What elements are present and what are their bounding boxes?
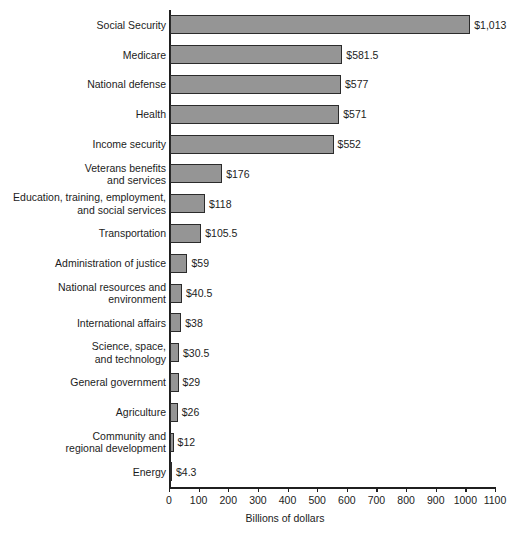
bar-row: Education, training, employment,and soci… (0, 189, 520, 219)
x-axis-tick-label: 100 (190, 494, 208, 506)
bar-value-label: $581.5 (346, 49, 378, 61)
x-axis-tick-label: 200 (220, 494, 238, 506)
bar-value-label: $105.5 (205, 227, 237, 239)
bar-and-value: $176 (170, 159, 250, 189)
category-label-line: Community and (92, 430, 166, 442)
bar (170, 224, 201, 243)
x-axis-tick (465, 487, 466, 492)
category-label-line: Medicare (123, 49, 166, 61)
bar-row: General government$29 (0, 368, 520, 398)
bar (170, 105, 339, 124)
category-label-line: and services (107, 174, 166, 186)
bar-row: Agriculture$26 (0, 397, 520, 427)
bar-and-value: $12 (170, 427, 195, 457)
x-axis-tick-label: 300 (249, 494, 267, 506)
x-axis-tick (199, 487, 200, 492)
bar-row: Medicare$581.5 (0, 40, 520, 70)
x-axis-line (169, 487, 496, 489)
category-label-line: and technology (95, 353, 166, 365)
x-axis-tick (317, 487, 318, 492)
bar (170, 164, 222, 183)
bar-value-label: $26 (182, 406, 200, 418)
x-axis-tick (258, 487, 259, 492)
category-label: Education, training, employment,and soci… (0, 189, 166, 219)
category-label: National resources andenvironment (0, 278, 166, 308)
category-label-line: regional development (66, 442, 166, 454)
x-axis-title-text: Billions of dollars (246, 512, 325, 524)
x-axis-title: Billions of dollars (0, 512, 520, 524)
bar-value-label: $38 (185, 317, 203, 329)
category-label: Social Security (0, 10, 166, 40)
category-label: Energy (0, 457, 166, 487)
category-label-line: environment (108, 293, 166, 305)
bar (170, 254, 187, 273)
bar-value-label: $118 (209, 198, 232, 210)
x-axis-tick-label: 700 (368, 494, 386, 506)
bar-row: Science, space,and technology$30.5 (0, 338, 520, 368)
category-label-line: Administration of justice (55, 257, 166, 269)
bar-value-label: $1,013 (474, 19, 506, 31)
category-label-line: National defense (87, 78, 166, 90)
bar-and-value: $552 (170, 129, 361, 159)
bar (170, 194, 205, 213)
x-axis-tick (376, 487, 377, 492)
category-label: Administration of justice (0, 248, 166, 278)
category-label-line: Social Security (97, 19, 166, 31)
bar-value-label: $176 (226, 168, 249, 180)
x-axis-tick-label: 1000 (454, 494, 477, 506)
bar-row: Transportation$105.5 (0, 219, 520, 249)
category-label-line: Energy (133, 466, 166, 478)
bar (170, 75, 341, 94)
bar-value-label: $29 (183, 376, 201, 388)
bar (170, 343, 179, 362)
bar-value-label: $571 (343, 108, 366, 120)
bar-row: National defense$577 (0, 70, 520, 100)
category-label: Agriculture (0, 397, 166, 427)
bar-and-value: $118 (170, 189, 232, 219)
bar-row: Social Security$1,013 (0, 10, 520, 40)
category-label-line: and social services (77, 204, 166, 216)
bar-and-value: $40.5 (170, 278, 212, 308)
bar-row: Income security$552 (0, 129, 520, 159)
bar (170, 403, 178, 422)
category-label-line: Education, training, employment, (13, 191, 166, 203)
bar-and-value: $577 (170, 70, 368, 100)
bar (170, 15, 470, 34)
category-label-line: Agriculture (116, 406, 166, 418)
category-label-line: Income security (92, 138, 166, 150)
x-axis-tick-label: 600 (338, 494, 356, 506)
category-label-line: General government (70, 376, 166, 388)
category-label-line: National resources and (58, 281, 166, 293)
bar-and-value: $1,013 (170, 10, 506, 40)
category-label: Transportation (0, 219, 166, 249)
bar (170, 462, 172, 481)
category-label: Veterans benefitsand services (0, 159, 166, 189)
category-label: Health (0, 99, 166, 129)
x-axis-tick (288, 487, 289, 492)
category-label-line: International affairs (77, 317, 166, 329)
bar-row: Energy$4.3 (0, 457, 520, 487)
category-label: Science, space,and technology (0, 338, 166, 368)
x-axis-tick (169, 487, 170, 492)
bar-value-label: $4.3 (176, 466, 196, 478)
category-label: National defense (0, 70, 166, 100)
x-axis-tick (495, 487, 496, 492)
bar-value-label: $59 (191, 257, 209, 269)
bar (170, 284, 182, 303)
bar-value-label: $30.5 (183, 347, 209, 359)
bar (170, 313, 181, 332)
x-axis-tick-label: 900 (427, 494, 445, 506)
bar-value-label: $40.5 (186, 287, 212, 299)
bar-row: International affairs$38 (0, 308, 520, 338)
bar-and-value: $59 (170, 248, 209, 278)
bar-row: Health$571 (0, 99, 520, 129)
bar (170, 433, 174, 452)
x-axis-tick-label: 0 (166, 494, 172, 506)
bar-and-value: $30.5 (170, 338, 209, 368)
bar (170, 373, 179, 392)
category-label: General government (0, 368, 166, 398)
category-label: Medicare (0, 40, 166, 70)
bar-row: National resources andenvironment$40.5 (0, 278, 520, 308)
bar-and-value: $38 (170, 308, 203, 338)
bar-row: Veterans benefitsand services$176 (0, 159, 520, 189)
